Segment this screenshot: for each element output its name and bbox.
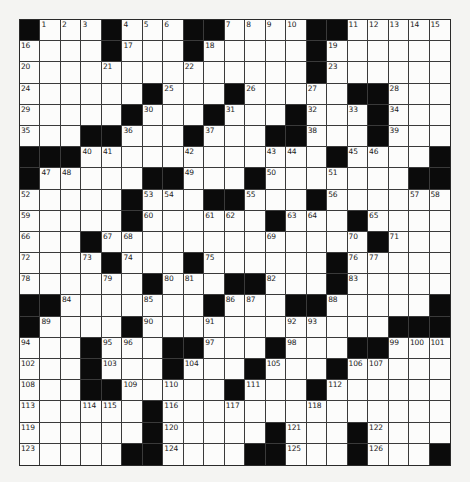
grid-cell[interactable] (348, 126, 368, 147)
grid-cell[interactable]: 29 (20, 105, 40, 126)
grid-cell[interactable]: 86 (225, 295, 245, 316)
grid-cell[interactable] (225, 253, 245, 274)
grid-cell[interactable]: 31 (225, 105, 245, 126)
grid-cell[interactable]: 32 (307, 105, 327, 126)
grid-cell[interactable]: 34 (389, 105, 409, 126)
grid-cell[interactable] (40, 62, 60, 83)
grid-cell[interactable]: 91 (204, 317, 224, 338)
grid-cell[interactable]: 58 (430, 190, 450, 211)
grid-cell[interactable] (286, 380, 306, 401)
grid-cell[interactable] (389, 423, 409, 444)
grid-cell[interactable]: 15 (430, 20, 450, 41)
grid-cell[interactable] (409, 147, 429, 168)
grid-cell[interactable] (307, 253, 327, 274)
grid-cell[interactable] (327, 105, 347, 126)
grid-cell[interactable] (225, 317, 245, 338)
grid-cell[interactable] (163, 105, 183, 126)
grid-cell[interactable] (307, 232, 327, 253)
grid-cell[interactable] (163, 147, 183, 168)
grid-cell[interactable] (348, 317, 368, 338)
grid-cell[interactable]: 99 (389, 338, 409, 359)
grid-cell[interactable] (184, 84, 204, 105)
grid-cell[interactable] (102, 444, 122, 465)
grid-cell[interactable] (122, 423, 142, 444)
grid-cell[interactable] (409, 253, 429, 274)
grid-cell[interactable]: 123 (20, 444, 40, 465)
grid-cell[interactable] (409, 126, 429, 147)
grid-cell[interactable] (204, 401, 224, 422)
grid-cell[interactable]: 81 (184, 274, 204, 295)
grid-cell[interactable] (122, 401, 142, 422)
grid-cell[interactable] (389, 211, 409, 232)
grid-cell[interactable] (204, 147, 224, 168)
grid-cell[interactable] (204, 84, 224, 105)
grid-cell[interactable] (245, 62, 265, 83)
grid-cell[interactable] (368, 274, 388, 295)
grid-cell[interactable] (61, 423, 81, 444)
grid-cell[interactable] (409, 401, 429, 422)
grid-cell[interactable] (102, 211, 122, 232)
grid-cell[interactable]: 89 (40, 317, 60, 338)
grid-cell[interactable]: 8 (245, 20, 265, 41)
grid-cell[interactable] (61, 338, 81, 359)
grid-cell[interactable] (204, 423, 224, 444)
grid-cell[interactable] (409, 232, 429, 253)
grid-cell[interactable] (307, 444, 327, 465)
grid-cell[interactable]: 53 (143, 190, 163, 211)
grid-cell[interactable]: 1 (40, 20, 60, 41)
grid-cell[interactable] (389, 380, 409, 401)
grid-cell[interactable]: 61 (204, 211, 224, 232)
grid-cell[interactable]: 59 (20, 211, 40, 232)
grid-cell[interactable]: 7 (225, 20, 245, 41)
grid-cell[interactable]: 14 (409, 20, 429, 41)
grid-cell[interactable] (61, 62, 81, 83)
grid-cell[interactable] (143, 62, 163, 83)
grid-cell[interactable]: 120 (163, 423, 183, 444)
grid-cell[interactable]: 50 (266, 168, 286, 189)
grid-cell[interactable] (81, 41, 101, 62)
grid-cell[interactable] (409, 359, 429, 380)
grid-cell[interactable]: 36 (122, 126, 142, 147)
grid-cell[interactable] (225, 444, 245, 465)
grid-cell[interactable] (245, 338, 265, 359)
grid-cell[interactable] (102, 84, 122, 105)
grid-cell[interactable] (430, 253, 450, 274)
grid-cell[interactable] (348, 380, 368, 401)
grid-cell[interactable] (163, 253, 183, 274)
grid-cell[interactable] (163, 41, 183, 62)
grid-cell[interactable] (327, 444, 347, 465)
grid-cell[interactable]: 45 (348, 147, 368, 168)
grid-cell[interactable]: 115 (102, 401, 122, 422)
grid-cell[interactable] (389, 274, 409, 295)
grid-cell[interactable] (204, 380, 224, 401)
grid-cell[interactable] (40, 126, 60, 147)
grid-cell[interactable] (348, 295, 368, 316)
grid-cell[interactable]: 48 (61, 168, 81, 189)
grid-cell[interactable]: 105 (266, 359, 286, 380)
grid-cell[interactable] (61, 380, 81, 401)
grid-cell[interactable]: 21 (102, 62, 122, 83)
grid-cell[interactable]: 44 (286, 147, 306, 168)
grid-cell[interactable]: 65 (368, 211, 388, 232)
grid-cell[interactable] (184, 317, 204, 338)
grid-cell[interactable] (61, 105, 81, 126)
grid-cell[interactable] (40, 253, 60, 274)
grid-cell[interactable] (102, 423, 122, 444)
grid-cell[interactable] (81, 84, 101, 105)
grid-cell[interactable] (225, 232, 245, 253)
grid-cell[interactable] (348, 190, 368, 211)
grid-cell[interactable] (122, 147, 142, 168)
grid-cell[interactable] (409, 62, 429, 83)
grid-cell[interactable] (286, 62, 306, 83)
grid-cell[interactable] (184, 190, 204, 211)
grid-cell[interactable]: 100 (409, 338, 429, 359)
grid-cell[interactable] (409, 380, 429, 401)
grid-cell[interactable]: 56 (327, 190, 347, 211)
grid-cell[interactable] (40, 84, 60, 105)
grid-cell[interactable] (225, 41, 245, 62)
grid-cell[interactable] (102, 105, 122, 126)
grid-cell[interactable] (61, 84, 81, 105)
grid-cell[interactable]: 37 (204, 126, 224, 147)
grid-cell[interactable]: 17 (122, 41, 142, 62)
grid-cell[interactable] (368, 380, 388, 401)
